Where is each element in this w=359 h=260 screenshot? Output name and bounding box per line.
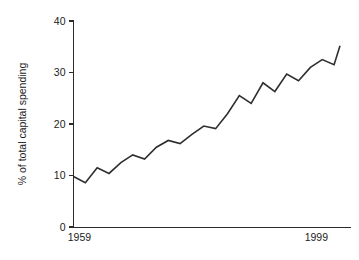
y-axis-tick-label: 0 — [60, 221, 66, 233]
y-axis-ticks — [69, 21, 74, 227]
y-axis-tick-label: 30 — [54, 66, 66, 78]
data-series-line — [74, 46, 341, 183]
y-axis-title: % of total capital spending — [16, 63, 28, 186]
y-axis-tick-label: 20 — [54, 118, 66, 130]
chart-figure: 010203040 19591999 % of total capital sp… — [0, 0, 359, 260]
x-axis-tick-label: 1999 — [305, 231, 329, 243]
y-axis-tick-labels: 010203040 — [54, 15, 66, 233]
chart-plot-svg: 010203040 19591999 % of total capital sp… — [0, 0, 359, 260]
y-axis-tick-label: 10 — [54, 169, 66, 181]
x-axis-tick-label: 1959 — [68, 231, 92, 243]
y-axis-tick-label: 40 — [54, 15, 66, 27]
x-axis-tick-labels: 19591999 — [68, 231, 328, 243]
